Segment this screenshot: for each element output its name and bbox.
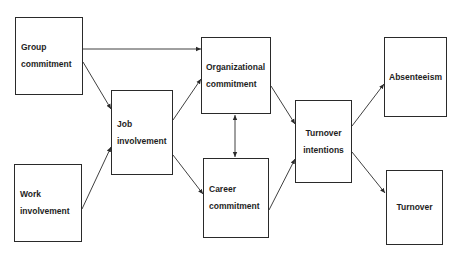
node-career-commitment: Career commitment [203, 158, 269, 238]
node-label-line: Turnover [396, 199, 432, 216]
edge-job-to-org [173, 79, 201, 120]
node-group-commitment: Group commitment [15, 17, 83, 95]
node-label-line: involvement [117, 133, 172, 150]
node-label-line: Career [209, 181, 268, 198]
node-label-line: intentions [303, 142, 344, 159]
edge-job-to-career [173, 155, 203, 194]
node-label-line: commitment [21, 56, 82, 73]
node-label-line: Work [20, 186, 81, 203]
node-label-line: Absenteeism [389, 69, 442, 86]
node-organizational-commitment: Organizational commitment [201, 37, 271, 114]
node-turnover: Turnover [386, 170, 443, 245]
edge-group-to-job [83, 62, 111, 109]
edge-career-to-intentions [269, 159, 295, 210]
node-label-line: Job [117, 116, 172, 133]
node-label-line: Group [21, 39, 82, 56]
edge-intentions-to-absenteeism [352, 84, 384, 126]
edge-work-to-job [82, 147, 111, 209]
node-label-line: commitment [206, 76, 270, 93]
node-work-involvement: Work involvement [14, 164, 82, 242]
edge-org-to-intentions [271, 86, 295, 124]
node-job-involvement: Job involvement [111, 90, 173, 175]
node-label-line: involvement [20, 203, 81, 220]
node-turnover-intentions: Turnover intentions [295, 100, 352, 183]
node-label-line: commitment [209, 198, 268, 215]
node-label-line: Turnover [305, 125, 341, 142]
edge-intentions-to-turnover [352, 152, 385, 193]
node-label-line: Organizational [206, 59, 270, 76]
node-absenteeism: Absenteeism [384, 37, 447, 117]
